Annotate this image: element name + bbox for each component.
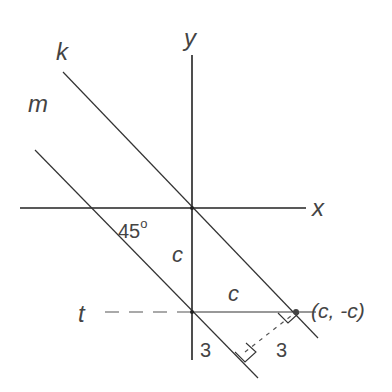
- horizontal-c-label: c: [228, 283, 239, 305]
- line-m: [35, 150, 258, 378]
- degree-symbol: o: [140, 216, 147, 231]
- origin-point: [190, 206, 194, 210]
- perpendicular-distance: [245, 312, 296, 352]
- line-k: [63, 72, 318, 338]
- point-c-minus-c: [293, 309, 299, 315]
- diagram: y x k m t 45o c c (c, -c) 3 3: [0, 0, 392, 392]
- distance-left-label: 3: [200, 340, 211, 360]
- point-label: (c, -c): [311, 300, 365, 321]
- distance-right-label: 3: [276, 340, 287, 360]
- angle-label: 45o: [118, 217, 147, 241]
- angle-value: 45: [118, 220, 140, 242]
- x-axis-label: x: [312, 196, 324, 220]
- line-t-label: t: [78, 302, 85, 326]
- vertical-c-label: c: [172, 244, 183, 266]
- line-k-label: k: [56, 40, 68, 64]
- line-m-label: m: [28, 92, 48, 116]
- y-axis-label: y: [184, 26, 196, 50]
- t-intercept-point: [190, 310, 194, 314]
